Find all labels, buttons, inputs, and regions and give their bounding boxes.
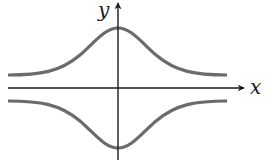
y-axis-label: y bbox=[97, 0, 110, 22]
x-axis-label: x bbox=[250, 75, 261, 99]
function-graph: y x bbox=[0, 0, 269, 160]
